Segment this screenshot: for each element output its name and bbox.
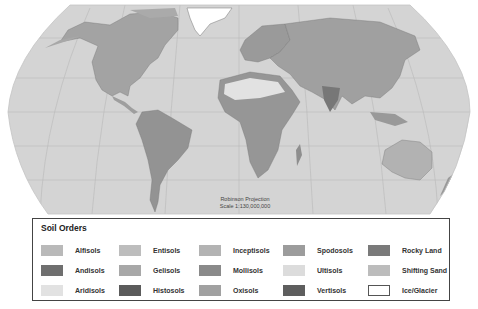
legend-item-andisols: Andisols <box>41 264 105 276</box>
legend-item-oxisols: Oxisols <box>199 284 258 296</box>
map-caption: Robinson Projection Scale 1:130,000,000 <box>200 196 290 210</box>
legend-item-shifting-sand: Shifting Sand <box>368 264 447 276</box>
legend-item-ice-glacier: Ice/Glacier <box>368 284 437 296</box>
world-soil-map <box>0 0 478 225</box>
legend-swatch <box>368 245 390 256</box>
legend-label: Aridisols <box>75 287 105 294</box>
legend: Soil Orders AlfisolsAndisolsAridisolsEnt… <box>32 218 450 301</box>
legend-item-vertisols: Vertisols <box>283 284 346 296</box>
legend-item-entisols: Entisols <box>119 244 180 256</box>
legend-label: Spodosols <box>317 247 353 254</box>
legend-swatch <box>368 265 390 276</box>
legend-label: Histosols <box>153 287 185 294</box>
legend-label: Rocky Land <box>402 247 442 254</box>
legend-item-alfisols: Alfisols <box>41 244 100 256</box>
legend-swatch <box>119 265 141 276</box>
legend-label: Ice/Glacier <box>402 287 437 294</box>
legend-item-histosols: Histosols <box>119 284 185 296</box>
legend-label: Inceptisols <box>233 247 270 254</box>
legend-label: Ultisols <box>317 267 342 274</box>
legend-swatch <box>199 265 221 276</box>
legend-swatch <box>119 245 141 256</box>
legend-swatch <box>283 285 305 296</box>
legend-label: Mollisols <box>233 267 263 274</box>
projection-label: Robinson Projection <box>200 196 290 203</box>
legend-swatch <box>41 245 63 256</box>
legend-label: Andisols <box>75 267 105 274</box>
legend-item-rocky-land: Rocky Land <box>368 244 442 256</box>
legend-item-gelisols: Gelisols <box>119 264 180 276</box>
legend-label: Alfisols <box>75 247 100 254</box>
legend-swatch <box>199 285 221 296</box>
legend-label: Shifting Sand <box>402 267 447 274</box>
scale-label: Scale 1:130,000,000 <box>200 203 290 210</box>
legend-label: Gelisols <box>153 267 180 274</box>
legend-swatch <box>41 265 63 276</box>
legend-swatch <box>41 285 63 296</box>
legend-label: Oxisols <box>233 287 258 294</box>
legend-label: Entisols <box>153 247 180 254</box>
legend-swatch <box>119 285 141 296</box>
legend-swatch <box>283 245 305 256</box>
legend-title: Soil Orders <box>41 223 87 233</box>
legend-item-ultisols: Ultisols <box>283 264 342 276</box>
legend-label: Vertisols <box>317 287 346 294</box>
legend-item-spodosols: Spodosols <box>283 244 353 256</box>
legend-swatch <box>283 265 305 276</box>
legend-item-mollisols: Mollisols <box>199 264 263 276</box>
legend-item-inceptisols: Inceptisols <box>199 244 270 256</box>
legend-swatch <box>368 285 390 296</box>
legend-item-aridisols: Aridisols <box>41 284 105 296</box>
legend-swatch <box>199 245 221 256</box>
